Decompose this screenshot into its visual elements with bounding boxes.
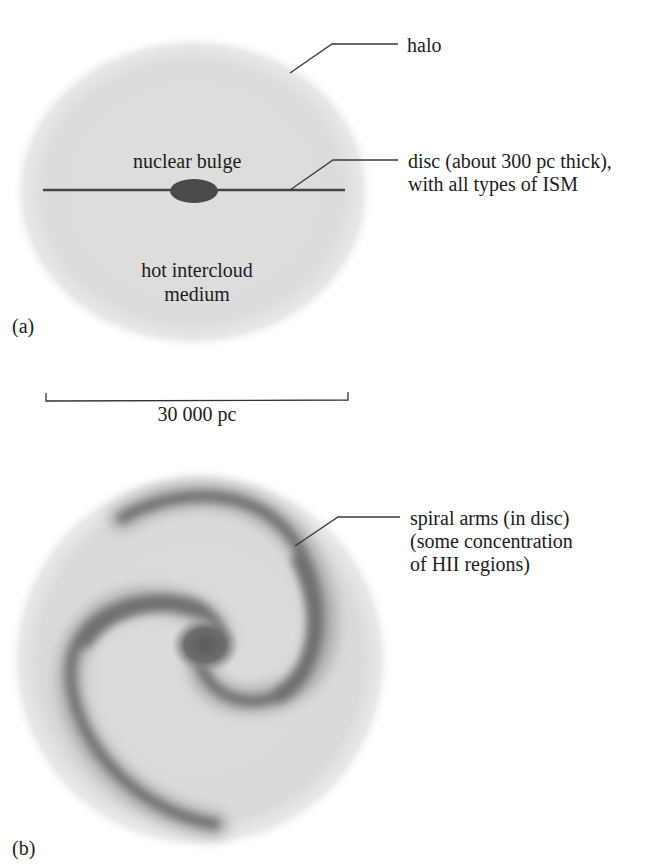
panel-b-label: (b) (12, 837, 35, 860)
spiral-label-line1: spiral arms (in disc) (410, 507, 569, 530)
halo-label: halo (407, 34, 441, 56)
galaxy-structure-diagram: halo nuclear bulge disc (about 300 pc th… (0, 0, 648, 866)
galactic-core (171, 617, 239, 673)
intercloud-label-line2: medium (164, 283, 230, 305)
intercloud-label-line1: hot intercloud (141, 259, 253, 281)
scale-bar: 30 000 pc (46, 392, 348, 426)
scale-bar-line (46, 392, 348, 401)
nuclear-bulge-label: nuclear bulge (133, 150, 241, 173)
disc-label-line2: with all types of ISM (408, 173, 578, 196)
panel-a-label: (a) (12, 315, 34, 338)
spiral-label-line3: of HII regions) (410, 553, 530, 576)
disc-label-line1: disc (about 300 pc thick), (408, 150, 612, 173)
panel-b: spiral arms (in disc) (some concentratio… (8, 468, 573, 860)
spiral-label-line2: (some concentration (410, 530, 573, 553)
scale-bar-label: 30 000 pc (158, 403, 237, 426)
nuclear-bulge (170, 179, 218, 203)
panel-a: halo nuclear bulge disc (about 300 pc th… (11, 34, 612, 350)
